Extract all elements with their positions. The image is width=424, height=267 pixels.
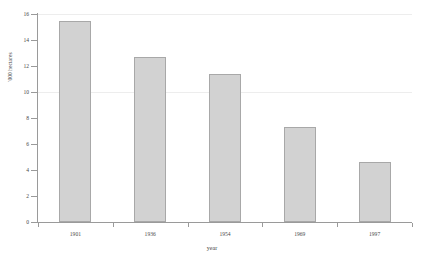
y-axis-line — [37, 13, 38, 223]
gridline — [38, 14, 412, 15]
y-axis-tick-label: 6 — [5, 141, 29, 147]
bar-chart: '000 hectares 02468101214161901193619541… — [0, 0, 424, 267]
y-axis-tick-label: 4 — [5, 167, 29, 173]
bar — [209, 74, 241, 222]
y-axis-tick-label: 16 — [5, 11, 29, 17]
y-axis-tick — [31, 92, 37, 93]
y-axis-tick — [31, 66, 37, 67]
x-axis-tick-label: 1954 — [205, 231, 245, 238]
y-axis-tick — [31, 118, 37, 119]
y-axis-tick — [31, 40, 37, 41]
bar — [134, 57, 166, 222]
x-axis-tick-label: 1901 — [55, 231, 95, 238]
y-axis-tick — [31, 170, 37, 171]
x-axis-line — [37, 222, 412, 223]
y-axis-tick-label: 8 — [5, 115, 29, 121]
y-axis-tick-label: 2 — [5, 193, 29, 199]
bar — [284, 127, 316, 222]
y-axis-tick — [31, 14, 37, 15]
x-axis-tick — [38, 223, 39, 227]
x-axis-title: year — [0, 245, 424, 251]
x-axis-tick-label: 1997 — [355, 231, 395, 238]
y-axis-tick-label: 14 — [5, 37, 29, 43]
bar — [59, 21, 91, 223]
y-axis-tick-label: 12 — [5, 63, 29, 69]
y-axis-tick-label: 0 — [5, 219, 29, 225]
y-axis-tick-label: 10 — [5, 89, 29, 95]
x-axis-tick-label: 1936 — [130, 231, 170, 238]
y-axis-tick — [31, 144, 37, 145]
y-axis-tick — [31, 222, 37, 223]
bar — [359, 162, 391, 222]
x-axis-tick — [337, 223, 338, 227]
x-axis-tick — [113, 223, 114, 227]
y-axis-tick — [31, 196, 37, 197]
x-axis-tick — [188, 223, 189, 227]
x-axis-tick — [412, 223, 413, 227]
x-axis-tick — [262, 223, 263, 227]
x-axis-tick-label: 1969 — [280, 231, 320, 238]
